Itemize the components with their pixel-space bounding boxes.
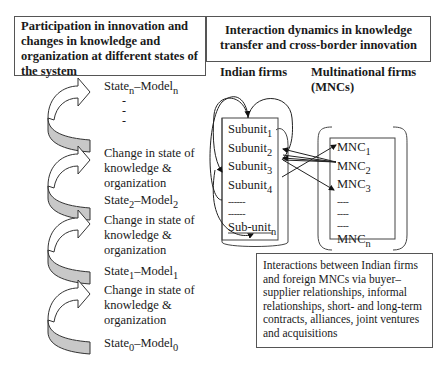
cycle-arrow-n bbox=[48, 78, 90, 152]
cycle-arrow-0 bbox=[48, 280, 90, 354]
change-text-1: Change in state of knowledge & organizat… bbox=[104, 283, 195, 328]
change-text-3: Change in state of knowledge & organizat… bbox=[104, 146, 195, 191]
subunit-3: Subunit3 bbox=[228, 159, 276, 178]
state-ellipsis: - - - bbox=[122, 96, 126, 126]
subunit-1: Subunit1 bbox=[228, 122, 276, 141]
subunit-2: Subunit2 bbox=[228, 141, 276, 160]
subunit-list: Subunit1 Subunit2 Subunit3 Subunit4 ----… bbox=[228, 122, 276, 239]
indian-firms-title: Indian firms bbox=[220, 65, 287, 80]
cycle-arrow-1 bbox=[48, 210, 90, 284]
state-1-label: State1–Model1 bbox=[104, 264, 178, 283]
cycle-arrows bbox=[48, 78, 90, 354]
state-n-label: Staten–Modeln bbox=[104, 79, 178, 98]
mnc-3: MNC3 bbox=[337, 177, 371, 196]
state-2-label: State2–Model2 bbox=[104, 193, 178, 212]
mnc-1: MNC1 bbox=[337, 140, 371, 159]
mnc-list: MNC1 MNC2 MNC3 ---- ---- ---- MNCn bbox=[337, 140, 371, 250]
subunit-n: Sub-unitn bbox=[228, 220, 276, 239]
cycle-arrow-2 bbox=[48, 146, 90, 220]
state-0-label: State0–Model0 bbox=[104, 336, 178, 355]
change-text-2: Change in state of knowledge & organizat… bbox=[104, 213, 195, 258]
mnc-n: MNCn bbox=[337, 232, 371, 251]
subunit-4: Subunit4 bbox=[228, 178, 276, 197]
interactions-note: Interactions between Indian firms and fo… bbox=[256, 253, 433, 348]
mnc-title: Multinational firms (MNCs) bbox=[311, 65, 416, 95]
mnc-2: MNC2 bbox=[337, 159, 371, 178]
